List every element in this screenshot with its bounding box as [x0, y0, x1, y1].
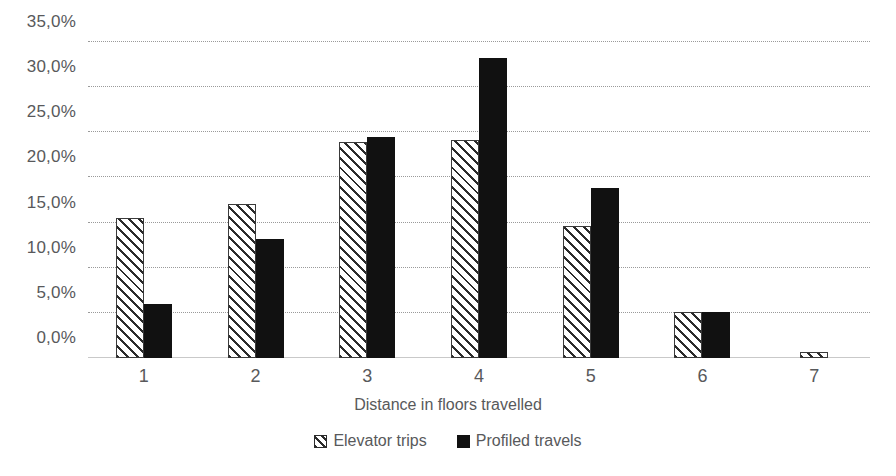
legend-item-label: Profiled travels [476, 432, 582, 450]
y-axis-tick-label: 20,0% [27, 147, 76, 167]
bar-profiled-travels-1[interactable] [144, 304, 172, 358]
x-axis-tick-label: 1 [88, 366, 200, 396]
plot-area: 0,0%5,0%10,0%15,0%20,0%25,0%30,0%35,0% [88, 42, 870, 358]
x-axis-tick-label: 6 [647, 366, 759, 396]
solid-square-icon [457, 435, 470, 448]
bar-elevator-trips-5[interactable] [563, 226, 591, 358]
bar-elevator-trips-4[interactable] [451, 140, 479, 358]
y-axis-tick-label: 35,0% [27, 12, 76, 32]
y-axis-tick-label: 5,0% [36, 283, 76, 303]
x-axis-tick-label: 5 [535, 366, 647, 396]
y-axis-tick-label: 25,0% [27, 102, 76, 122]
bar-elevator-trips-3[interactable] [339, 142, 367, 358]
bar-group [647, 42, 759, 358]
legend-item[interactable]: Profiled travels [457, 432, 582, 450]
bar-profiled-travels-5[interactable] [591, 188, 619, 358]
bar-elevator-trips-1[interactable] [116, 218, 144, 358]
x-axis-tick-label: 2 [200, 366, 312, 396]
bar-profiled-travels-6[interactable] [702, 312, 730, 358]
bar-profiled-travels-3[interactable] [367, 137, 395, 358]
x-axis-tick-labels: 1234567 [88, 366, 870, 396]
legend-item-label: Elevator trips [333, 432, 426, 450]
bar-group [535, 42, 647, 358]
bar-group [758, 42, 870, 358]
bar-elevator-trips-7[interactable] [800, 352, 828, 358]
x-axis-tick-label: 4 [423, 366, 535, 396]
bar-chart: 0,0%5,0%10,0%15,0%20,0%25,0%30,0%35,0% 1… [0, 0, 896, 476]
chart-legend: Elevator tripsProfiled travels [0, 432, 896, 450]
bar-group [423, 42, 535, 358]
bar-elevator-trips-2[interactable] [228, 204, 256, 358]
bars-layer [88, 42, 870, 358]
y-axis-tick-label: 30,0% [27, 57, 76, 77]
bar-profiled-travels-2[interactable] [256, 239, 284, 358]
y-axis-tick-label: 0,0% [36, 328, 76, 348]
bar-group [311, 42, 423, 358]
bar-profiled-travels-4[interactable] [479, 58, 507, 358]
x-axis-tick-label: 3 [311, 366, 423, 396]
y-axis-tick-label: 15,0% [27, 193, 76, 213]
legend-item[interactable]: Elevator trips [314, 432, 426, 450]
bar-group [88, 42, 200, 358]
y-axis-tick-label: 10,0% [27, 238, 76, 258]
bar-group [200, 42, 312, 358]
bar-elevator-trips-6[interactable] [674, 312, 702, 358]
hatched-square-icon [314, 435, 327, 448]
x-axis-title: Distance in floors travelled [0, 396, 896, 414]
x-axis-tick-label: 7 [758, 366, 870, 396]
